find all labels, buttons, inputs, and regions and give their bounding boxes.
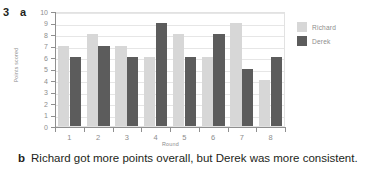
bar-derek-round-5	[185, 57, 196, 126]
bar-richard-round-7	[230, 23, 241, 127]
bar-richard-round-1	[58, 46, 69, 127]
y-axis-tick-label: 6	[8, 55, 48, 62]
y-axis-tick-labels: 012345678910	[6, 0, 48, 148]
legend-item-derek: Derek	[297, 36, 369, 46]
legend-label: Richard	[312, 24, 336, 31]
bar-derek-round-2	[98, 46, 109, 127]
chart-legend: RichardDerek	[297, 22, 369, 50]
bar-richard-round-5	[173, 34, 184, 126]
y-axis-tick-label: 10	[8, 9, 48, 16]
legend-swatch-derek	[297, 36, 307, 46]
bar-derek-round-1	[70, 57, 81, 126]
y-axis-tick-label: 1	[8, 112, 48, 119]
legend-label: Derek	[312, 38, 331, 45]
bar-richard-round-6	[202, 57, 213, 126]
y-axis-tick-label: 3	[8, 89, 48, 96]
y-axis-tick	[51, 35, 55, 36]
y-axis-tick-label: 8	[8, 32, 48, 39]
bar-derek-round-8	[271, 57, 282, 126]
y-axis-tick	[51, 104, 55, 105]
legend-item-richard: Richard	[297, 22, 369, 32]
y-axis-tick	[51, 70, 55, 71]
bar-richard-round-8	[259, 80, 270, 126]
part-b-label: b	[18, 152, 25, 164]
answer-line: b Richard got more points overall, but D…	[18, 152, 358, 164]
y-axis-tick	[51, 12, 55, 13]
x-axis-tick	[55, 128, 56, 132]
x-axis-tick	[141, 128, 142, 132]
plot-area	[55, 12, 285, 127]
x-axis-tick	[199, 128, 200, 132]
bar-derek-round-4	[156, 23, 167, 127]
y-axis-line	[55, 12, 56, 128]
y-axis-tick	[51, 58, 55, 59]
x-axis-tick	[84, 128, 85, 132]
bar-chart-figure: Points scored 012345678910 12345678 Roun…	[0, 0, 372, 148]
bar-derek-round-3	[127, 57, 138, 126]
bar-derek-round-6	[213, 34, 224, 126]
y-axis-tick-label: 9	[8, 20, 48, 27]
y-axis-tick	[51, 116, 55, 117]
gridline	[55, 13, 284, 14]
y-axis-tick	[51, 47, 55, 48]
x-axis-tick	[228, 128, 229, 132]
part-b-answer-text: Richard got more points overall, but Der…	[31, 152, 358, 164]
legend-swatch-richard	[297, 22, 307, 32]
bar-richard-round-4	[144, 57, 155, 126]
y-axis-tick	[51, 93, 55, 94]
y-axis-tick	[51, 81, 55, 82]
x-axis-tick	[285, 128, 286, 132]
gridline	[55, 25, 284, 26]
bar-derek-round-7	[242, 69, 253, 127]
y-axis-tick	[51, 24, 55, 25]
y-axis-tick-label: 7	[8, 43, 48, 50]
y-axis-tick-label: 5	[8, 66, 48, 73]
x-axis-title: Round	[55, 141, 286, 147]
x-axis-tick	[256, 128, 257, 132]
bar-richard-round-3	[115, 46, 126, 127]
x-axis-tick	[113, 128, 114, 132]
x-axis-tick	[170, 128, 171, 132]
y-axis-tick-label: 4	[8, 78, 48, 85]
y-axis-tick-label: 0	[8, 124, 48, 131]
bar-richard-round-2	[87, 34, 98, 126]
y-axis-tick-label: 2	[8, 101, 48, 108]
